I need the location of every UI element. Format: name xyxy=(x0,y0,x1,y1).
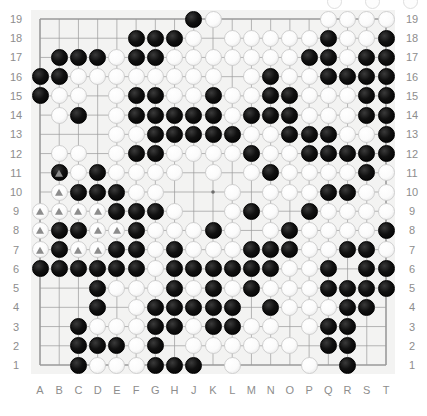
stone-B9[interactable] xyxy=(51,203,68,220)
stone-J1[interactable] xyxy=(185,357,202,374)
stone-G3[interactable] xyxy=(147,318,164,335)
stone-S5[interactable] xyxy=(358,280,375,297)
stone-T8[interactable] xyxy=(378,222,395,239)
stone-F16[interactable] xyxy=(128,68,145,85)
stone-K14[interactable] xyxy=(205,107,222,124)
stone-C8[interactable] xyxy=(70,222,87,239)
stone-H4[interactable] xyxy=(166,299,183,316)
stone-R3[interactable] xyxy=(339,318,356,335)
stone-N9[interactable] xyxy=(262,203,279,220)
stone-E14[interactable] xyxy=(108,107,125,124)
stone-L3[interactable] xyxy=(224,318,241,335)
stone-P12[interactable] xyxy=(301,145,318,162)
stone-C12[interactable] xyxy=(70,145,87,162)
stone-Q18[interactable] xyxy=(320,30,337,47)
stone-G7[interactable] xyxy=(147,241,164,258)
stone-C1[interactable] xyxy=(70,357,87,374)
stone-O18[interactable] xyxy=(281,30,298,47)
stone-G1[interactable] xyxy=(147,357,164,374)
stone-S18[interactable] xyxy=(358,30,375,47)
stone-Q17[interactable] xyxy=(320,49,337,66)
stone-G10[interactable] xyxy=(147,184,164,201)
stone-D17[interactable] xyxy=(89,49,106,66)
stone-D10[interactable] xyxy=(89,184,106,201)
stone-Q10[interactable] xyxy=(320,184,337,201)
stone-L6[interactable] xyxy=(224,260,241,277)
stone-G5[interactable] xyxy=(147,280,164,297)
stone-J18[interactable] xyxy=(185,30,202,47)
stone-L9[interactable] xyxy=(224,203,241,220)
stone-N10[interactable] xyxy=(262,184,279,201)
stone-J13[interactable] xyxy=(185,126,202,143)
stone-T11[interactable] xyxy=(378,164,395,181)
stone-F15[interactable] xyxy=(128,87,145,104)
stone-R19[interactable] xyxy=(339,11,356,28)
stone-H3[interactable] xyxy=(166,318,183,335)
stone-C16[interactable] xyxy=(70,68,87,85)
stone-P9[interactable] xyxy=(301,203,318,220)
stone-F4[interactable] xyxy=(128,299,145,316)
stone-Q9[interactable] xyxy=(320,203,337,220)
stone-F9[interactable] xyxy=(128,203,145,220)
stone-R4[interactable] xyxy=(339,299,356,316)
stone-E9[interactable] xyxy=(108,203,125,220)
stone-K6[interactable] xyxy=(205,260,222,277)
stone-Q3[interactable] xyxy=(320,318,337,335)
stone-Q4[interactable] xyxy=(320,299,337,316)
stone-L8[interactable] xyxy=(224,222,241,239)
stone-R1[interactable] xyxy=(339,357,356,374)
stone-B15[interactable] xyxy=(51,87,68,104)
stone-B6[interactable] xyxy=(51,260,68,277)
stone-H18[interactable] xyxy=(166,30,183,47)
stone-R17[interactable] xyxy=(339,49,356,66)
stone-G8[interactable] xyxy=(147,222,164,239)
stone-F1[interactable] xyxy=(128,357,145,374)
stone-C10[interactable] xyxy=(70,184,87,201)
stone-H9[interactable] xyxy=(166,203,183,220)
stone-F12[interactable] xyxy=(128,145,145,162)
stone-L15[interactable] xyxy=(224,87,241,104)
stone-Q19[interactable] xyxy=(320,11,337,28)
stone-E1[interactable] xyxy=(108,357,125,374)
stone-P14[interactable] xyxy=(301,107,318,124)
stone-M18[interactable] xyxy=(243,30,260,47)
stone-M3[interactable] xyxy=(243,318,260,335)
stone-L12[interactable] xyxy=(224,145,241,162)
stone-T5[interactable] xyxy=(378,280,395,297)
stone-T19[interactable] xyxy=(378,11,395,28)
stone-L5[interactable] xyxy=(224,280,241,297)
stone-N14[interactable] xyxy=(262,107,279,124)
stone-N18[interactable] xyxy=(262,30,279,47)
stone-E5[interactable] xyxy=(108,280,125,297)
stone-H12[interactable] xyxy=(166,145,183,162)
stone-T10[interactable] xyxy=(378,184,395,201)
stone-T16[interactable] xyxy=(378,68,395,85)
stone-K17[interactable] xyxy=(205,49,222,66)
stone-J19[interactable] xyxy=(185,11,202,28)
stone-P11[interactable] xyxy=(301,164,318,181)
stone-Q11[interactable] xyxy=(320,164,337,181)
stone-G9[interactable] xyxy=(147,203,164,220)
stone-G11[interactable] xyxy=(147,164,164,181)
stone-J4[interactable] xyxy=(185,299,202,316)
stone-P10[interactable] xyxy=(301,184,318,201)
stone-L10[interactable] xyxy=(224,184,241,201)
stone-K7[interactable] xyxy=(205,241,222,258)
stone-A16[interactable] xyxy=(32,68,49,85)
stone-L1[interactable] xyxy=(224,357,241,374)
stone-B17[interactable] xyxy=(51,49,68,66)
stone-J5[interactable] xyxy=(185,280,202,297)
stone-B10[interactable] xyxy=(51,184,68,201)
stone-P5[interactable] xyxy=(301,280,318,297)
stone-G12[interactable] xyxy=(147,145,164,162)
stone-L14[interactable] xyxy=(224,107,241,124)
stone-F2[interactable] xyxy=(128,337,145,354)
stone-A8[interactable] xyxy=(32,222,49,239)
stone-H14[interactable] xyxy=(166,107,183,124)
stone-R14[interactable] xyxy=(339,107,356,124)
stone-N13[interactable] xyxy=(262,126,279,143)
stone-R10[interactable] xyxy=(339,184,356,201)
stone-O10[interactable] xyxy=(281,184,298,201)
stone-A6[interactable] xyxy=(32,260,49,277)
stone-S9[interactable] xyxy=(358,203,375,220)
